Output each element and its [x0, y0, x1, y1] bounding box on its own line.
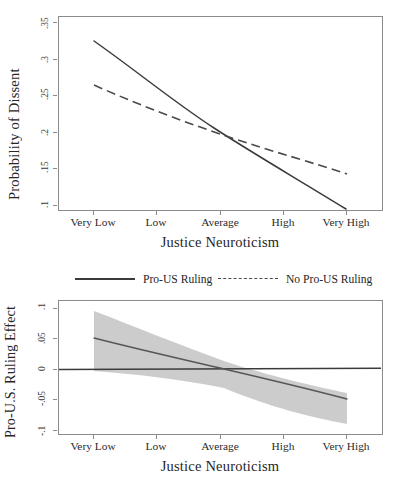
top-x-tick-label-low: Low [146, 216, 167, 228]
bottom-y-tick-label-3: -.05 [37, 387, 47, 409]
top-y-tick-label-2: .25 [40, 84, 50, 104]
legend-label-pro-us-ruling: Pro-US Ruling [143, 273, 212, 286]
bottom-y-tickmark-4 [53, 430, 57, 431]
legend-key-solid-line-icon [75, 273, 135, 285]
legend-key-dashed-line-icon [218, 273, 278, 285]
top-plot-svg [59, 17, 382, 210]
bottom-x-tickmark-0 [93, 435, 94, 439]
bottom-x-tick-label-average: Average [201, 440, 239, 452]
top-y-tick-label-3: .2 [40, 124, 50, 140]
figure-root: Probability of Dissent .35 .3 .25 .2 .15… [0, 0, 403, 482]
bottom-plot-area [58, 300, 383, 435]
bottom-x-tick-label-very-low: Very Low [70, 440, 115, 452]
legend-item-pro-us-ruling: Pro-US Ruling [75, 266, 212, 292]
legend-label-no-pro-us-ruling: No Pro-US Ruling [286, 273, 372, 286]
top-y-tick-label-4: .15 [40, 157, 50, 177]
bottom-y-tick-label-2: 0 [37, 364, 47, 374]
top-plot-area [58, 16, 383, 211]
bottom-x-tick-label-very-high: Very High [322, 440, 369, 452]
bottom-y-tick-label-0: .1 [37, 300, 47, 312]
bottom-y-tick-label-4: -.1 [37, 423, 47, 439]
top-y-axis-title: Probability of Dissent [6, 24, 23, 200]
bottom-x-axis-title: Justice Neuroticism [161, 458, 280, 475]
top-y-tickmark-0 [53, 22, 57, 23]
top-x-tickmark-4 [346, 211, 347, 215]
top-y-tickmark-2 [53, 95, 57, 96]
top-x-tickmark-1 [156, 211, 157, 215]
top-x-tickmark-3 [283, 211, 284, 215]
bottom-x-tick-label-high: High [272, 440, 295, 452]
top-x-tickmark-0 [93, 211, 94, 215]
bottom-y-tickmark-3 [53, 399, 57, 400]
panel-pro-us-ruling-effect: Pro-U.S. Ruling Effect .1 .05 0 -.05 -.1 [0, 292, 403, 482]
top-x-tick-label-high: High [272, 216, 295, 228]
bottom-y-tick-label-1: .05 [37, 329, 47, 347]
bottom-y-tickmark-0 [53, 308, 57, 309]
top-y-tickmark-5 [53, 205, 57, 206]
panel-probability-of-dissent: Probability of Dissent .35 .3 .25 .2 .15… [0, 0, 403, 258]
bottom-plot-svg [59, 301, 382, 434]
bottom-y-axis-title: Pro-U.S. Ruling Effect [2, 296, 19, 438]
bottom-x-tick-label-low: Low [146, 440, 167, 452]
confidence-band [94, 311, 347, 424]
top-x-tick-label-very-high: Very High [322, 216, 369, 228]
top-y-tick-label-0: .35 [40, 14, 50, 32]
bottom-y-tickmark-1 [53, 338, 57, 339]
bottom-x-tickmark-4 [346, 435, 347, 439]
top-y-tickmark-3 [53, 132, 57, 133]
series-no-pro-us-ruling-line [94, 85, 347, 174]
bottom-x-tickmark-2 [220, 435, 221, 439]
figure-legend: Pro-US Ruling No Pro-US Ruling [0, 266, 403, 292]
bottom-x-tickmark-1 [156, 435, 157, 439]
top-x-tickmark-2 [220, 211, 221, 215]
top-x-axis-title: Justice Neuroticism [161, 234, 280, 251]
top-y-tick-label-5: .1 [40, 197, 50, 211]
top-y-tickmark-4 [53, 168, 57, 169]
legend-item-no-pro-us-ruling: No Pro-US Ruling [218, 266, 372, 292]
bottom-x-tickmark-3 [283, 435, 284, 439]
series-pro-us-ruling-line [94, 41, 346, 209]
top-y-tick-label-1: .3 [40, 51, 50, 67]
top-x-tick-label-average: Average [201, 216, 239, 228]
top-y-tickmark-1 [53, 59, 57, 60]
bottom-y-tickmark-2 [53, 369, 57, 370]
top-x-tick-label-very-low: Very Low [70, 216, 115, 228]
